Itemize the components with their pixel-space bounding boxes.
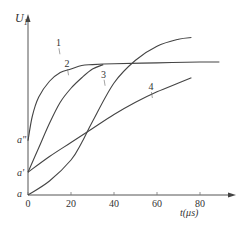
- x-tick-labels: 020406080: [26, 198, 206, 209]
- curve-label-leader: [59, 48, 60, 54]
- y-axis-label: U1: [15, 11, 28, 27]
- curve-label-2: 2: [65, 58, 70, 69]
- curve-label-3: 3: [101, 69, 106, 80]
- x-tick-label: 20: [66, 198, 76, 209]
- curve-label-leader: [104, 80, 105, 86]
- x-tick-label: 60: [152, 198, 162, 209]
- curve-2: [28, 65, 103, 173]
- curves: [28, 38, 219, 196]
- x-axis-label: t(μs): [180, 207, 199, 219]
- curve-label-leader: [151, 92, 152, 98]
- chart: 020406080 U1 a" a' a t(μs) 1234: [0, 0, 247, 231]
- y-tick-a-prime: a': [17, 167, 25, 178]
- curve-4: [28, 78, 191, 173]
- curve-1: [28, 62, 219, 141]
- y-tick-a: a: [17, 188, 22, 199]
- x-tick-label: 0: [26, 198, 31, 209]
- x-tick-label: 40: [109, 198, 119, 209]
- curve-label-1: 1: [56, 37, 61, 48]
- x-axis-arrow-icon: [228, 193, 236, 198]
- curve-label-4: 4: [148, 81, 153, 92]
- y-tick-a-double-prime: a": [17, 134, 27, 145]
